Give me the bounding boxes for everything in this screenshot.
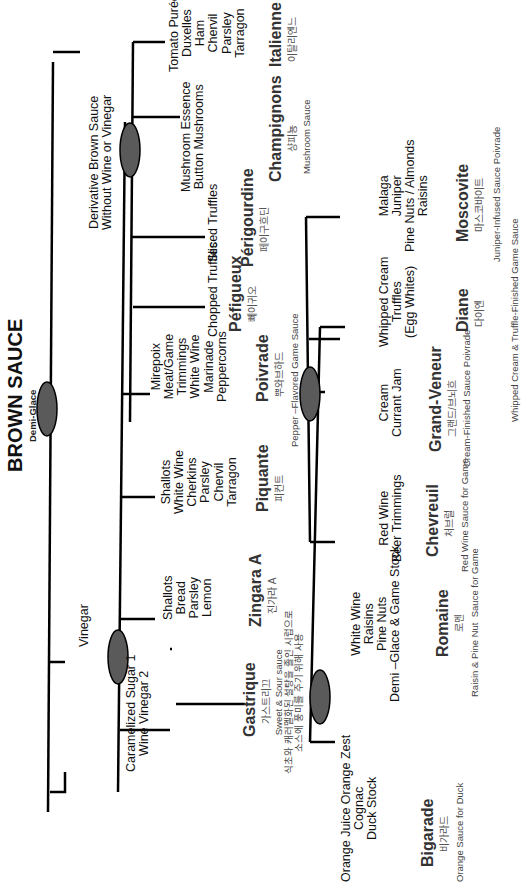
- diane-description: Whipped Cream & Truffle-Finished Game Sa…: [510, 218, 520, 422]
- root-subtitle: Demi-Glace: [28, 390, 38, 442]
- brown-sauce-tree: BROWN SAUCE Demi-Glace Vinegar Derivativ…: [0, 0, 530, 892]
- romaine-description: Raisin & Pine Nut Sauce for Game: [470, 548, 480, 697]
- vinegar-label: Vinegar: [78, 604, 91, 647]
- grand-veneur-name: Grand-Veneur: [428, 346, 445, 452]
- perigourdine-ingredients: Sliced Truffles: [207, 184, 220, 262]
- diane-name: Diane: [455, 288, 472, 332]
- poivrade-korean: 뿌와브하드: [275, 352, 286, 397]
- bigarade-ingredients: Orange Juice Orange Zest Cognac Duck Sto…: [340, 735, 379, 882]
- italienne-ingredients: Tomato Purée Duxelles Ham Chervil Parsle…: [168, 0, 247, 72]
- grand-veneur-korean: 그랜드/브뇌흐: [448, 380, 459, 437]
- derivative-node: [120, 123, 140, 177]
- game-node: [300, 367, 320, 421]
- zingara-ingredients: Shallots Bread Parsley Lemon: [162, 576, 215, 620]
- diagram-stage: BROWN SAUCE Demi-Glace Vinegar Derivativ…: [0, 0, 530, 892]
- perigourdine-korean: 페이구흐딘: [260, 207, 271, 252]
- poivrade-description: Pepper –Flavored Game Sauce: [290, 313, 300, 447]
- chevreuil-description: Red Wine Sauce for Game: [460, 458, 470, 572]
- perigueux-name: Péfigueux: [228, 256, 245, 332]
- romaine-ingredients: White Wine Raisins Pine Nuts Demi –Glace…: [350, 546, 403, 702]
- root-title: BROWN SAUCE: [5, 319, 26, 472]
- chevreuil-korean: 처브럴: [445, 510, 456, 537]
- diane-ingredients: Whipped Cream Truffles (Egg Whites): [378, 257, 417, 347]
- diane-korean: 다이엔: [475, 300, 486, 327]
- poivrade-name: Poivrade: [255, 334, 272, 402]
- root-node: [37, 382, 57, 436]
- italienne-korean: 이탈리엔느: [288, 17, 299, 62]
- gastrique-description: Sweet & Sour sauce 식초와 캐러멜화된 설탕을 졸인 시럽으로…: [274, 610, 304, 774]
- piquante-korean: 피컨트: [275, 475, 286, 502]
- romaine-korean: 로멘: [455, 614, 466, 632]
- champignons-name: Champignons: [268, 75, 285, 182]
- chevreuil-ingredients: Red Wine Beer Trimmings: [378, 474, 404, 562]
- grand-veneur-description: Cream-Finished Sauce Poivrade: [462, 330, 472, 467]
- zingara-korean: 진가라 A: [268, 578, 279, 614]
- moscovite-korean: 마스코바이트: [475, 178, 486, 232]
- gastrique-name: Gastrique: [242, 662, 259, 737]
- champignons-ingredients: Mushroom Essence Button Mushrooms: [180, 82, 206, 192]
- moscovite-ingredients: Malaga Juniper Pine Nuts / Almonds Raisi…: [378, 139, 431, 252]
- derivative-label: Derivative Brown Sauce Without Wine or V…: [88, 95, 114, 230]
- bigarade-korean: 비가라드: [440, 816, 451, 852]
- gastrique-ingredients: Caramelized Sugar 1 Wine Vinegar 2: [125, 655, 151, 772]
- grand-veneur-ingredients: Cream Currant Jam: [378, 368, 404, 437]
- chevreuil-name: Chevreuil: [425, 484, 442, 557]
- piquante-ingredients: Shallots White Wine Cherkins Parsley Che…: [160, 450, 239, 514]
- perigourdine-name: Périgourdine: [240, 168, 257, 267]
- bigarade-name: Bigarade: [420, 799, 437, 867]
- gastrique-korean: 가스트리끄: [262, 679, 273, 724]
- piquante-name: Piquante: [255, 444, 272, 512]
- moscovite-name: Moscovite: [455, 164, 472, 242]
- champignons-korean: 샹피뇽: [288, 125, 299, 152]
- romaine-name: Romaine: [435, 589, 452, 657]
- zingara-name: Zingara A: [248, 554, 265, 627]
- champignons-description: Mushroom Sauce: [302, 100, 312, 174]
- bigarade-description: Orange Sauce for Duck: [455, 783, 465, 882]
- perigueux-korean: 뻬이귀오: [248, 286, 259, 322]
- italienne-name: Italienne: [268, 2, 285, 67]
- orange-node: [310, 670, 330, 724]
- poivrade-ingredients: Mirepoix Meat/Game Trimmings White Wine …: [150, 331, 229, 402]
- moscovite-description: Juniper-Infused Sauce Poivrade: [492, 127, 502, 262]
